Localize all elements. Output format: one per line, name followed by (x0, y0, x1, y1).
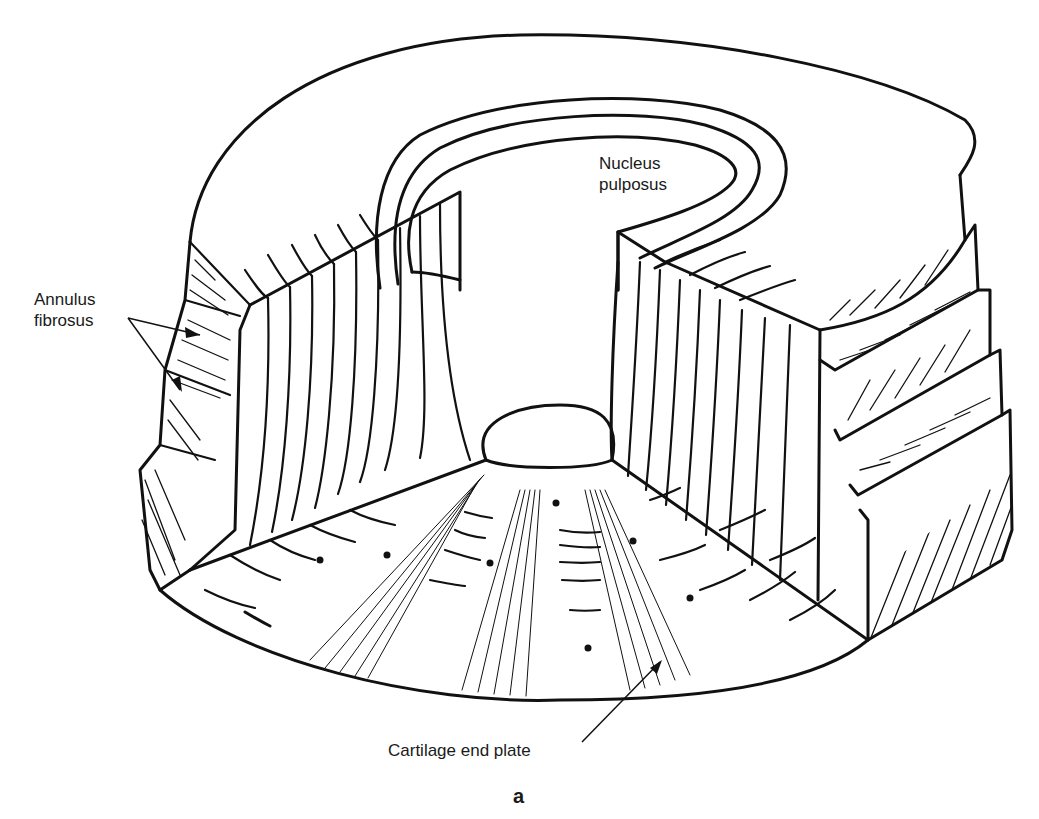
nucleus-pulposus-label: Nucleus pulposus (599, 153, 667, 195)
annulus-left-wall (140, 242, 250, 590)
cut-face-left (190, 192, 486, 570)
disc-diagram: Nucleus pulposus Annulus fibrosus Cartil… (0, 0, 1039, 819)
disc-top-surface (190, 35, 975, 290)
cartilage-end-plate-label: Cartilage end plate (388, 740, 531, 761)
annulus-fibrosus-label: Annulus fibrosus (34, 289, 95, 331)
panel-label: a (513, 786, 524, 807)
annulus-right-wall (820, 175, 1012, 640)
cartilage-end-plate (160, 405, 868, 700)
cut-face-right (611, 232, 868, 640)
disc-illustration (0, 0, 1039, 819)
